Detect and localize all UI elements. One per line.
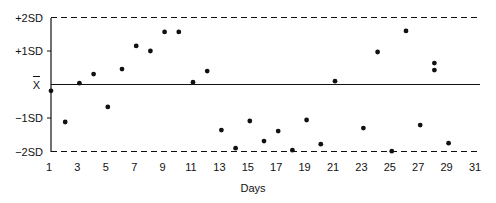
data-point	[233, 146, 238, 151]
x-tick-label: 7	[131, 161, 137, 173]
data-point	[432, 68, 437, 73]
y-axis-labels: +2SD+1SDX−1SD−2SD	[15, 12, 43, 158]
data-point	[404, 29, 409, 34]
y-axis-label: −1SD	[15, 112, 43, 124]
reference-lines	[47, 18, 480, 152]
data-point	[361, 126, 366, 131]
data-point	[205, 69, 210, 74]
y-axis-label: +1SD	[15, 45, 43, 57]
data-point	[134, 44, 139, 49]
data-point	[91, 72, 96, 77]
x-tick-label: 31	[469, 161, 481, 173]
data-point	[290, 148, 295, 153]
x-tick-label: 5	[103, 161, 109, 173]
data-point	[262, 139, 267, 144]
data-point	[77, 81, 82, 86]
data-point	[276, 129, 281, 134]
x-tick-label: 13	[213, 161, 225, 173]
data-point	[176, 30, 181, 35]
x-tick-label: 1	[46, 161, 52, 173]
x-tick-label: 17	[270, 161, 282, 173]
data-point	[247, 119, 252, 124]
x-tick-label: 21	[327, 161, 339, 173]
x-tick-label: 3	[74, 161, 80, 173]
levey-jennings-chart: +2SD+1SDX−1SD−2SD 1357911131517192123252…	[0, 0, 496, 203]
data-point	[105, 105, 110, 110]
data-point	[219, 128, 224, 133]
x-tick-label: 19	[298, 161, 310, 173]
x-axis-labels: 135791113151719212325272931	[46, 161, 481, 173]
x-tick-label: 23	[355, 161, 367, 173]
x-axis-title: Days	[240, 182, 266, 194]
y-axis-label: X	[33, 79, 41, 91]
data-point	[375, 50, 380, 55]
y-axis-label: −2SD	[15, 146, 43, 158]
data-point	[162, 30, 167, 35]
data-point	[389, 149, 394, 154]
data-points	[49, 29, 451, 154]
data-point	[446, 141, 451, 146]
y-axis-label: +2SD	[15, 12, 43, 24]
x-tick-label: 11	[185, 161, 196, 173]
data-point	[148, 49, 153, 54]
data-point	[333, 79, 338, 84]
x-tick-label: 15	[242, 161, 254, 173]
x-tick-label: 25	[384, 161, 396, 173]
x-tick-label: 29	[440, 161, 452, 173]
data-point	[191, 80, 196, 85]
data-point	[49, 88, 54, 93]
data-point	[318, 142, 323, 147]
data-point	[120, 67, 125, 72]
data-point	[432, 61, 437, 66]
data-point	[63, 120, 68, 125]
data-point	[304, 118, 309, 123]
x-tick-label: 9	[160, 161, 166, 173]
data-point	[418, 123, 423, 128]
x-tick-label: 27	[412, 161, 424, 173]
